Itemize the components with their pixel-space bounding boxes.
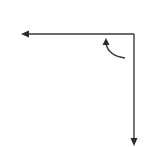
arrowhead-up-icon — [103, 38, 110, 45]
vertical-axis-arrow — [131, 34, 138, 146]
arrowhead-down-icon — [131, 138, 138, 146]
arrowhead-left-icon — [21, 31, 29, 38]
rotation-diagram — [0, 0, 160, 147]
horizontal-axis-arrow — [21, 31, 134, 38]
rotation-arrow — [103, 38, 126, 58]
